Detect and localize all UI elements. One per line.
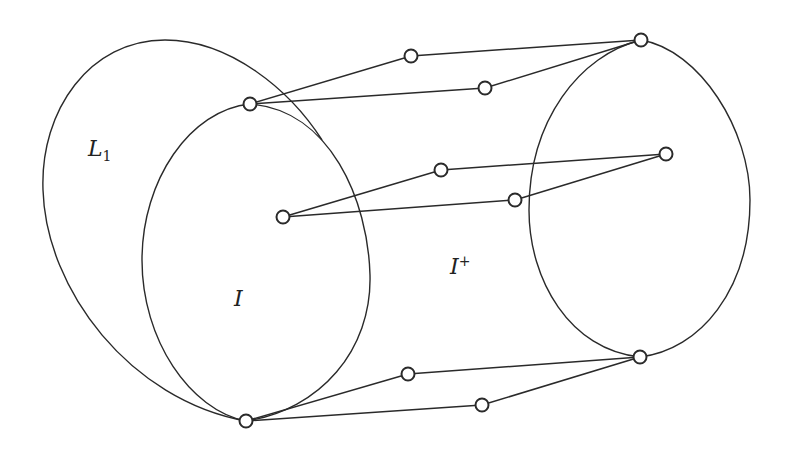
label-I-main: I — [234, 286, 243, 311]
node-l — [634, 351, 647, 364]
node-b — [405, 50, 418, 63]
node-k — [476, 399, 489, 412]
edge-i-j — [246, 374, 408, 421]
label-I-plus-superscript: + — [459, 253, 471, 269]
edges-group — [246, 40, 666, 421]
label-L1-main: L — [88, 136, 103, 161]
edge-e-f — [283, 170, 441, 217]
node-f — [435, 164, 448, 177]
node-h — [660, 148, 673, 161]
label-I: I — [234, 288, 243, 310]
edge-g-h — [515, 154, 666, 200]
node-c — [479, 82, 492, 95]
diagram-canvas — [0, 0, 788, 455]
node-a — [244, 98, 257, 111]
edge-j-l — [408, 357, 640, 374]
nodes-group — [240, 34, 673, 428]
edge-f-h — [441, 154, 666, 170]
label-L1-subscript: 1 — [103, 148, 112, 164]
label-L1: L1 — [88, 138, 112, 163]
node-g — [509, 194, 522, 207]
edge-a-b — [250, 56, 411, 104]
edge-k-l — [482, 357, 640, 405]
edge-i-k — [246, 405, 482, 421]
node-d — [635, 34, 648, 47]
label-I-plus-main: I — [450, 254, 459, 279]
region-right-ellipse-boundary — [529, 40, 750, 357]
edge-c-d — [485, 40, 641, 88]
edge-b-d — [411, 40, 641, 56]
node-i — [240, 415, 253, 428]
label-I-plus: I+ — [450, 254, 470, 278]
region-L1-boundary — [43, 40, 322, 421]
region-I-boundary — [142, 104, 370, 421]
node-j — [402, 368, 415, 381]
node-e — [277, 211, 290, 224]
edge-e-g — [283, 200, 515, 217]
